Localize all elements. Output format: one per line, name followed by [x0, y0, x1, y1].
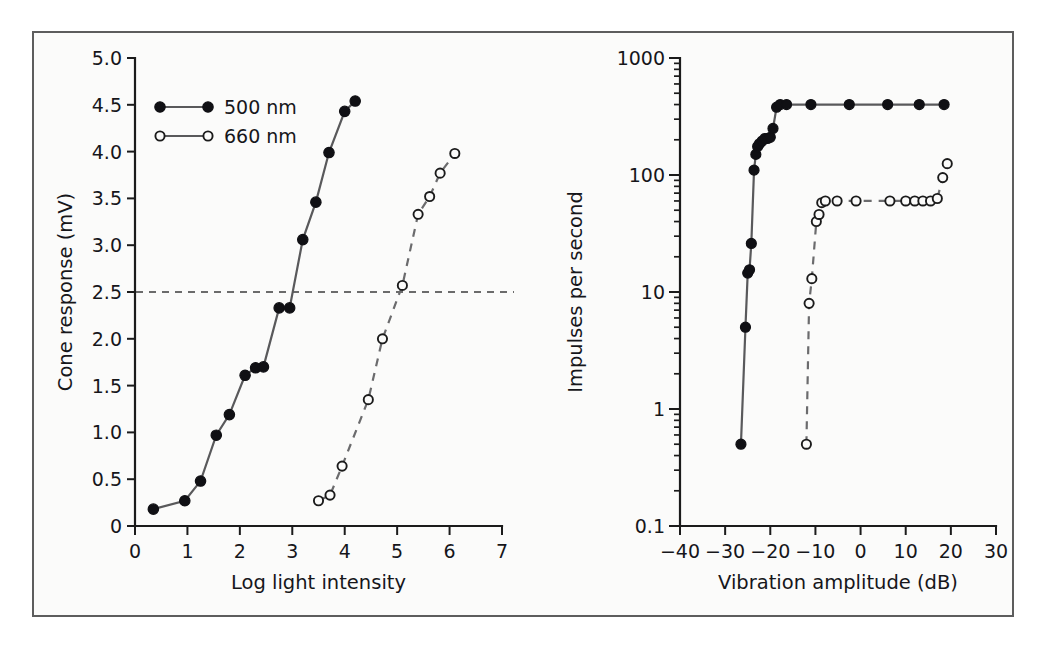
- x-axis-title: Vibration amplitude (dB): [718, 571, 958, 594]
- data-point: [806, 100, 816, 110]
- x-tick-label: 20: [939, 540, 963, 562]
- y-tick-label: 4.0: [92, 141, 122, 163]
- y-tick-label: 3.5: [92, 187, 122, 209]
- data-point: [844, 100, 854, 110]
- data-point: [883, 100, 893, 110]
- data-point: [284, 303, 294, 313]
- chart-panel-impulses-vibration: 0.11101001000−40−30−20−100102030Vibratio…: [534, 33, 1012, 615]
- x-tick-label: 0: [855, 540, 867, 562]
- x-axis-ticks: −40−30−20−100102030: [660, 526, 1008, 562]
- data-point: [885, 196, 894, 205]
- y-tick-label: 1000: [617, 47, 665, 69]
- data-point: [802, 440, 811, 449]
- x-tick-label: 6: [444, 540, 456, 562]
- x-tick-label: −40: [660, 540, 700, 562]
- data-point: [240, 370, 250, 380]
- data-point: [340, 106, 350, 116]
- series-line: [319, 153, 455, 500]
- figure-frame: 00.51.01.52.02.53.03.54.04.55.001234567L…: [32, 31, 1014, 617]
- x-tick-label: 10: [894, 540, 918, 562]
- series-filled-circle-series: [736, 100, 949, 450]
- data-point: [782, 100, 792, 110]
- y-tick-label: 100: [629, 164, 665, 186]
- data-point: [311, 197, 321, 207]
- y-axis-title: Impulses per second: [564, 191, 587, 393]
- data-point: [807, 274, 816, 283]
- data-point: [436, 169, 445, 178]
- x-tick-label: 3: [286, 540, 298, 562]
- x-axis-ticks: 01234567: [129, 526, 508, 562]
- axes-group: [680, 58, 996, 526]
- data-point: [939, 100, 949, 110]
- y-tick-label: 0.1: [635, 515, 665, 537]
- y-tick-label: 5.0: [92, 47, 122, 69]
- y-axis-ticks: 00.51.01.52.02.53.03.54.04.55.0: [92, 47, 135, 537]
- y-tick-label: 0: [110, 515, 122, 537]
- data-point: [749, 165, 759, 175]
- y-tick-label: 1.5: [92, 375, 122, 397]
- data-point: [298, 234, 308, 244]
- legend-label: 660 nm: [224, 125, 297, 147]
- data-point: [943, 159, 952, 168]
- x-tick-label: −10: [795, 540, 835, 562]
- data-point: [274, 303, 284, 313]
- legend-marker: [155, 131, 164, 140]
- data-point: [211, 430, 221, 440]
- data-point: [745, 265, 755, 275]
- series-500-nm: [148, 96, 360, 514]
- data-point: [746, 238, 756, 248]
- data-point: [414, 210, 423, 219]
- data-point: [337, 461, 346, 470]
- data-point: [901, 196, 910, 205]
- data-point: [736, 439, 746, 449]
- legend-label: 500 nm: [224, 96, 297, 118]
- x-axis-title: Log light intensity: [231, 571, 406, 594]
- x-tick-label: −20: [750, 540, 790, 562]
- y-tick-label: 4.5: [92, 94, 122, 116]
- legend-marker: [203, 131, 212, 140]
- cone-response-chart: 00.51.01.52.02.53.03.54.04.55.001234567L…: [34, 33, 534, 619]
- y-tick-label: 3.0: [92, 234, 122, 256]
- x-tick-label: 1: [181, 540, 193, 562]
- y-tick-label: 0.5: [92, 468, 122, 490]
- y-tick-label: 1: [653, 398, 665, 420]
- data-point: [398, 281, 407, 290]
- x-tick-label: −30: [705, 540, 745, 562]
- data-point: [832, 196, 841, 205]
- series-open-circle-series: [802, 159, 952, 449]
- data-point: [148, 504, 158, 514]
- data-point: [224, 409, 234, 419]
- series-line: [153, 101, 355, 509]
- impulses-vibration-chart: 0.11101001000−40−30−20−100102030Vibratio…: [534, 33, 1012, 619]
- data-point: [450, 149, 459, 158]
- data-point: [914, 100, 924, 110]
- legend: 500 nm660 nm: [155, 96, 297, 147]
- y-tick-label: 2.0: [92, 328, 122, 350]
- series-660-nm: [314, 149, 460, 505]
- data-point: [258, 362, 268, 372]
- data-point: [814, 210, 823, 219]
- data-point: [180, 496, 190, 506]
- legend-marker: [203, 102, 213, 112]
- x-tick-label: 0: [129, 540, 141, 562]
- x-tick-label: 4: [339, 540, 351, 562]
- x-tick-label: 30: [984, 540, 1008, 562]
- data-point: [851, 196, 860, 205]
- y-tick-label: 2.5: [92, 281, 122, 303]
- figure-root: 00.51.01.52.02.53.03.54.04.55.001234567L…: [0, 0, 1042, 657]
- chart-panel-cone-response: 00.51.01.52.02.53.03.54.04.55.001234567L…: [34, 33, 534, 615]
- x-tick-label: 7: [496, 540, 508, 562]
- data-point: [378, 334, 387, 343]
- data-point: [740, 322, 750, 332]
- data-point: [821, 196, 830, 205]
- data-point: [933, 194, 942, 203]
- data-point: [350, 96, 360, 106]
- x-tick-label: 2: [234, 540, 246, 562]
- data-point: [364, 395, 373, 404]
- data-point: [938, 173, 947, 182]
- x-tick-label: 5: [391, 540, 403, 562]
- data-point: [195, 476, 205, 486]
- data-point: [314, 496, 323, 505]
- series-line: [741, 105, 944, 445]
- data-point: [768, 123, 778, 133]
